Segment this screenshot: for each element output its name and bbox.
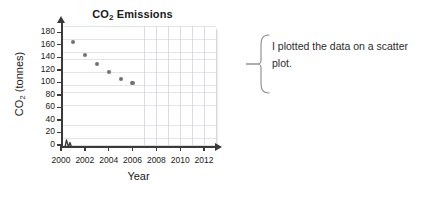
y-axis-tick: [57, 82, 61, 83]
y-axis-tick: [57, 57, 61, 58]
x-axis-arrowhead-icon: [215, 143, 222, 151]
co2-emissions-scatter-chart: CO2 Emissions 020406080100120140160180 2…: [0, 0, 245, 199]
x-axis-tick: [203, 146, 204, 151]
x-axis-tick: [180, 146, 181, 151]
x-axis-tick: [60, 146, 61, 151]
y-axis-title-main: CO: [13, 100, 25, 117]
y-axis-title: CO2 (tonnes): [13, 29, 25, 139]
y-axis-tick-label: 60: [33, 101, 55, 111]
chart-title-rest: Emissions: [114, 8, 173, 20]
y-axis-tick: [57, 94, 61, 95]
scatter-data-point: [119, 77, 123, 81]
screenshot-root: CO2 Emissions 020406080100120140160180 2…: [0, 0, 432, 199]
y-axis-tick: [57, 69, 61, 70]
chart-title: CO2 Emissions: [40, 8, 225, 20]
y-axis-tick-label: 180: [33, 26, 55, 36]
y-axis-title-subscript: 2: [18, 95, 27, 99]
y-axis-tick-label: 120: [33, 64, 55, 74]
scatter-data-point: [130, 81, 134, 85]
y-axis-tick: [57, 107, 61, 108]
x-axis-tick-label: 2012: [189, 155, 219, 165]
axis-break-icon: [62, 138, 75, 148]
x-axis-tick: [108, 146, 109, 151]
y-axis-line: [61, 22, 63, 148]
y-axis-tick: [57, 44, 61, 45]
y-axis-tick-label: 80: [33, 89, 55, 99]
x-axis-tick: [84, 146, 85, 151]
callout-text: I plotted the data on a scatter plot.: [272, 38, 424, 72]
x-axis-tick: [132, 146, 133, 151]
y-axis-tick-label: 40: [33, 114, 55, 124]
chart-title-subscript: 2: [109, 13, 114, 22]
plot-grid-area: [61, 26, 216, 145]
y-axis-arrowhead-icon: [57, 16, 65, 23]
y-axis-tick-label: 160: [33, 39, 55, 49]
y-axis-title-rest: (tonnes): [13, 52, 25, 95]
y-axis-tick-label: 140: [33, 51, 55, 61]
y-axis-tick-label: 0: [33, 139, 55, 149]
y-axis-tick-label: 20: [33, 126, 55, 136]
y-axis-tick: [57, 119, 61, 120]
y-axis-tick: [57, 32, 61, 33]
scatter-data-point: [83, 53, 87, 57]
x-axis-tick: [156, 146, 157, 151]
y-axis-tick-label: 100: [33, 76, 55, 86]
y-axis-tick-labels: 020406080100120140160180: [30, 0, 55, 199]
chart-title-main: CO: [92, 8, 109, 20]
x-axis-title: Year: [61, 170, 216, 182]
callout-annotation: I plotted the data on a scatter plot.: [246, 33, 432, 95]
y-axis-tick: [57, 132, 61, 133]
